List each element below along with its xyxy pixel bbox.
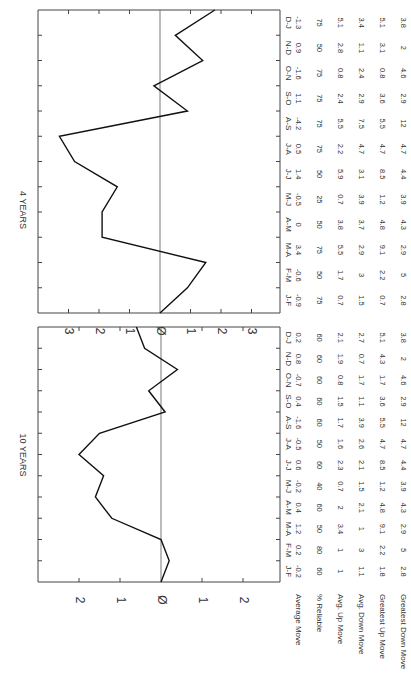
table-cell: 4.3: [378, 354, 387, 364]
plot-frame: [38, 327, 280, 582]
table-cell: 2.2: [378, 545, 387, 555]
y-tick-label: 1: [114, 597, 128, 604]
table-cell: 3.7: [357, 219, 366, 229]
table-cell: 1.7: [378, 375, 387, 385]
table-cell: 5: [399, 273, 408, 277]
table-cell: 3.6: [378, 93, 387, 103]
table-cell: -0.2: [294, 565, 303, 578]
month-label: J-F: [284, 566, 293, 578]
month-label: F-M: [284, 268, 293, 283]
table-cell: 2.9: [357, 93, 366, 103]
table-cell: 5.5: [336, 118, 345, 128]
table-cell: 3.8: [336, 219, 345, 229]
table-cell: 5.1: [378, 332, 387, 342]
table-cell: 2.8: [336, 43, 345, 53]
table-cell: 1.2: [378, 194, 387, 204]
month-label: M-A: [284, 522, 293, 537]
table-cell: 9.1: [378, 524, 387, 534]
table-cell: -1.6: [294, 416, 303, 429]
table-cell: 3.8: [399, 332, 408, 342]
table-cell: 1.1: [294, 93, 303, 103]
chart-4-years: 321Ø1234 YEARSJ-FF-MM-AA-MM-JJ-JJ-AA-SS-…: [18, 10, 408, 336]
y-tick-label: 2: [73, 597, 87, 604]
table-cell: 75: [315, 94, 324, 102]
table-cell: 4.4: [399, 169, 408, 179]
table-cell: 2.9: [399, 396, 408, 406]
y-tick-label: 2: [93, 328, 107, 335]
table-cell: 1.1: [357, 43, 366, 53]
table-cell: 1.1: [357, 566, 366, 576]
month-label: D-J: [284, 16, 293, 28]
y-tick-label: 1: [123, 328, 137, 335]
table-cell: 4.7: [357, 144, 366, 154]
table-cell: -0.5: [294, 437, 303, 450]
table-row-label: Avg. Up Move: [336, 594, 345, 645]
month-label: J-J: [284, 460, 293, 471]
table-cell: 2.1: [357, 502, 366, 512]
table-cell: 2.4: [336, 93, 345, 103]
month-label: F-M: [284, 543, 293, 558]
table-cell: 2.9: [399, 93, 408, 103]
seasonal-line: [79, 327, 177, 582]
month-label: A-M: [284, 500, 293, 515]
month-label: S-O: [284, 91, 293, 105]
month-label: O-N: [284, 373, 293, 388]
table-cell: 75: [315, 69, 324, 77]
table-cell: 2.9: [399, 524, 408, 534]
table-cell: 75: [315, 296, 324, 304]
table-cell: 7.5: [357, 118, 366, 128]
month-label: N-D: [284, 352, 293, 366]
table-row-label: Avg. Down Move: [357, 594, 366, 655]
table-cell: 4.3: [399, 219, 408, 229]
table-cell: 1.1: [357, 396, 366, 406]
table-cell: 0.8: [294, 354, 303, 364]
table-cell: 1.6: [336, 439, 345, 449]
table-cell: 50: [315, 271, 324, 279]
table-cell: 3.9: [357, 417, 366, 427]
table-cell: 2: [399, 357, 408, 361]
table-cell: 1.7: [336, 270, 345, 280]
table-cell: 2.8: [399, 295, 408, 305]
month-label: O-N: [284, 66, 293, 81]
table-cell: 1: [336, 548, 345, 552]
table-cell: 4.6: [399, 68, 408, 78]
table-cell: -1.3: [294, 16, 303, 29]
table-cell: 1.2: [294, 524, 303, 534]
table-cell: 75: [315, 246, 324, 254]
table-cell: 60: [315, 376, 324, 384]
table-cell: 2.3: [336, 460, 345, 470]
table-row-label: Greatest Down Move: [399, 594, 408, 670]
month-label: J-A: [284, 438, 293, 451]
table-row-label: Greatest Up Move: [378, 594, 387, 659]
month-label: D-J: [284, 331, 293, 343]
table-cell: 2: [399, 46, 408, 50]
table-cell: 1.2: [378, 481, 387, 491]
table-cell: -1.6: [294, 67, 303, 80]
table-cell: 4.7: [378, 439, 387, 449]
y-tick-label: 1: [196, 597, 210, 604]
y-tick-label: 1: [184, 328, 198, 335]
table-cell: 1.5: [357, 295, 366, 305]
table-cell: 3.4: [336, 524, 345, 534]
table-cell: 60: [315, 333, 324, 341]
table-cell: -0.7: [294, 374, 303, 387]
rotated-seasonal-chart-page: 321Ø1234 YEARSJ-FF-MM-AA-MM-JJ-JJ-AA-SS-…: [0, 0, 411, 677]
y-tick-label: 3: [62, 328, 76, 335]
table-cell: 2.6: [357, 439, 366, 449]
table-cell: 3: [357, 273, 366, 277]
table-cell: 50: [315, 44, 324, 52]
table-cell: 4.7: [399, 144, 408, 154]
table-cell: 3.9: [399, 481, 408, 491]
table-cell: 1.5: [336, 396, 345, 406]
table-cell: 2.8: [399, 566, 408, 576]
table-cell: 2.9: [399, 245, 408, 255]
table-cell: 5.1: [336, 17, 345, 27]
chart-title: 4 YEARS: [18, 191, 28, 229]
table-cell: 0.6: [294, 460, 303, 470]
table-cell: 0.8: [336, 68, 345, 78]
table-cell: 4.7: [378, 144, 387, 154]
month-label: A-S: [284, 117, 293, 130]
table-cell: 4.8: [378, 219, 387, 229]
table-cell: 3.1: [357, 169, 366, 179]
table-cell: -0.2: [294, 480, 303, 493]
